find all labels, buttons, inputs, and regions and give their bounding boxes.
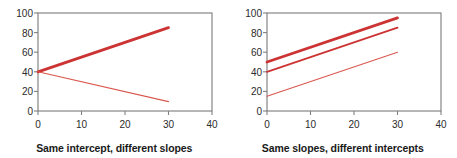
plot-frame [267, 13, 441, 111]
panel-right-plot: 100 80 60 40 20 0 0 10 20 30 40 [229, 0, 457, 136]
panel-same-slopes: 100 80 60 40 20 0 0 10 20 30 40 [229, 0, 457, 158]
panel-left-caption: Same intercept, different slopes [0, 142, 229, 154]
two-panel-line-chart-figure: 100 80 60 40 20 0 0 10 20 30 [0, 0, 457, 158]
line-negative-slope [38, 72, 169, 102]
panel-left-plot: 100 80 60 40 20 0 0 10 20 30 [0, 0, 228, 136]
line-mid-intercept [267, 28, 398, 72]
y-tick-label-100: 100 [16, 8, 33, 19]
x-tick-label-30: 30 [391, 119, 403, 130]
x-tick-label-20: 20 [348, 119, 360, 130]
y-tick-label-80: 80 [22, 28, 34, 39]
y-tick-label-100: 100 [245, 8, 262, 19]
panel-right-caption: Same slopes, different intercepts [229, 142, 457, 154]
x-tick-label-40: 40 [206, 119, 218, 130]
x-tick-label-40: 40 [435, 119, 447, 130]
y-tick-label-20: 20 [22, 86, 34, 97]
y-tick-label-40: 40 [22, 67, 34, 78]
y-tick-label-80: 80 [250, 28, 262, 39]
y-tick-label-60: 60 [22, 47, 34, 58]
x-tick-label-0: 0 [35, 119, 41, 130]
x-tick-label-30: 30 [163, 119, 175, 130]
y-tick-label-20: 20 [250, 86, 262, 97]
x-tick-label-20: 20 [119, 119, 131, 130]
line-high-intercept [267, 18, 398, 62]
line-low-intercept [267, 52, 398, 96]
y-tick-label-0: 0 [27, 106, 33, 117]
y-tick-label-40: 40 [250, 67, 262, 78]
x-tick-label-10: 10 [304, 119, 316, 130]
y-tick-label-0: 0 [256, 106, 262, 117]
x-tick-label-0: 0 [264, 119, 270, 130]
panel-same-intercept: 100 80 60 40 20 0 0 10 20 30 [0, 0, 229, 158]
line-steep-positive-slope [38, 28, 169, 72]
x-tick-label-10: 10 [76, 119, 88, 130]
y-tick-label-60: 60 [250, 47, 262, 58]
